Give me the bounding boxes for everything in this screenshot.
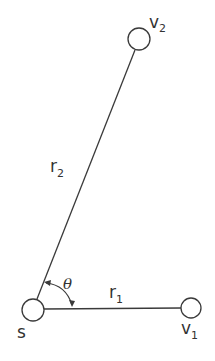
node-v1: [181, 298, 201, 318]
node-s: [22, 299, 44, 321]
edge-r1: [44, 308, 181, 309]
arrowhead-icon: [44, 280, 51, 286]
arrowhead-icon: [69, 300, 75, 307]
geometry-diagram: v2 r2 θ r1 s v1: [0, 0, 215, 361]
label-r1: r1: [109, 282, 123, 306]
label-s: s: [17, 322, 26, 342]
label-r2: r2: [50, 156, 64, 180]
node-v2: [128, 28, 150, 50]
label-v1: v1: [181, 318, 198, 342]
label-v2: v2: [149, 12, 166, 35]
label-theta: θ: [63, 275, 72, 293]
